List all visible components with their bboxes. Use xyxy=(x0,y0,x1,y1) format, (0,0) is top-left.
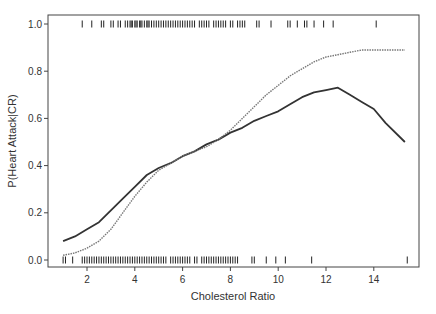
plot-area xyxy=(48,15,419,267)
chart: 2468101214 0.00.20.40.60.81.0 Cholestero… xyxy=(0,0,436,314)
x-tick-label: 10 xyxy=(273,274,285,285)
x-tick-label: 4 xyxy=(132,274,138,285)
x-tick-label: 2 xyxy=(84,274,90,285)
x-tick-label: 14 xyxy=(368,274,380,285)
x-axis-label: Cholesterol Ratio xyxy=(191,290,275,302)
y-tick-label: 0.0 xyxy=(28,255,42,266)
y-tick-label: 1.0 xyxy=(28,19,42,30)
y-tick-label: 0.8 xyxy=(28,66,42,77)
y-tick-label: 0.2 xyxy=(28,207,42,218)
x-tick-label: 12 xyxy=(320,274,332,285)
x-tick-label: 8 xyxy=(228,274,234,285)
x-axis: 2468101214 xyxy=(84,267,380,285)
y-tick-label: 0.4 xyxy=(28,160,42,171)
y-axis: 0.00.20.40.60.81.0 xyxy=(28,19,48,266)
x-tick-label: 6 xyxy=(180,274,186,285)
y-tick-label: 0.6 xyxy=(28,113,42,124)
y-axis-label: P(Heart Attack|CR) xyxy=(6,94,18,187)
